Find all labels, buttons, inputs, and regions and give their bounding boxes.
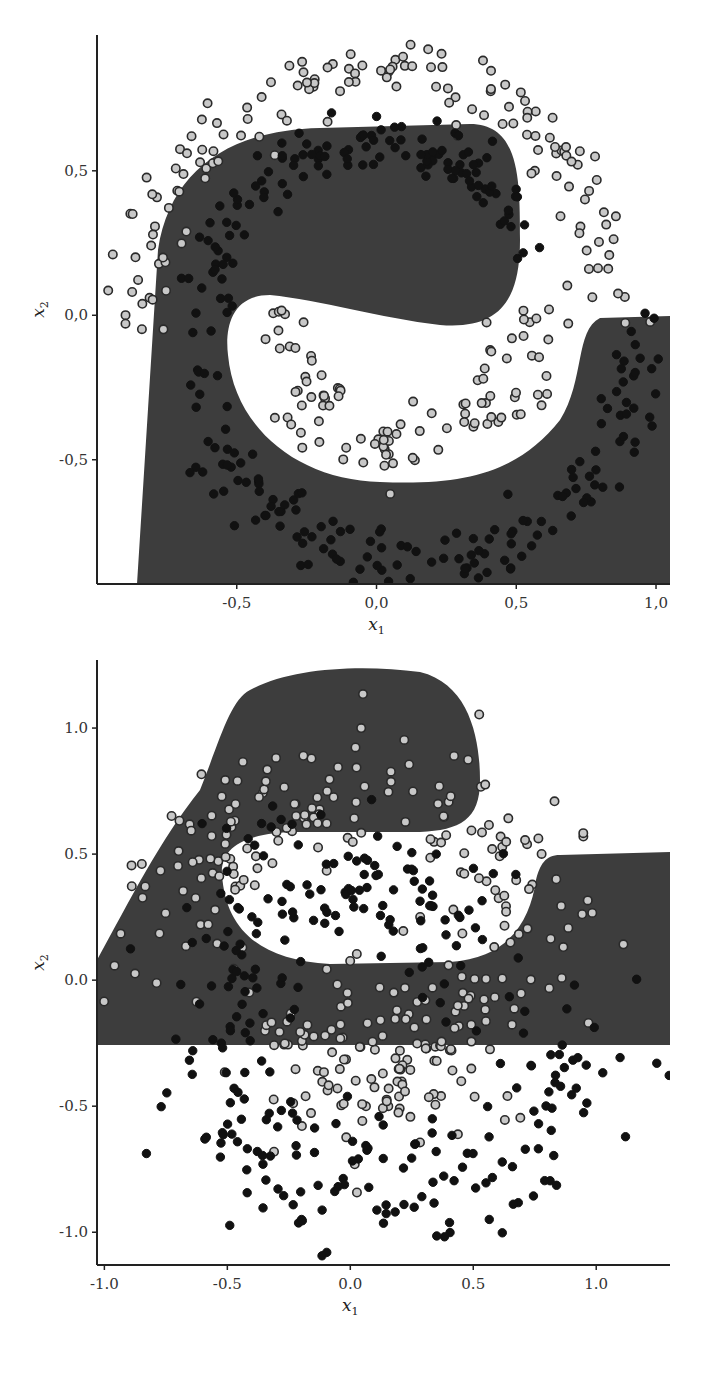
- x-tick-label: 0,0: [365, 594, 389, 612]
- plot-canvas-bottom: -1.0-0.50.00.51.0-1.0-0.50.00.51.0x1x2: [0, 640, 713, 1385]
- x-axis-label: x1: [368, 614, 385, 637]
- x-tick-label: 0,5: [504, 594, 528, 612]
- y-tick-label: 1.0: [64, 719, 88, 737]
- x-tick-label: 0.0: [338, 1275, 362, 1293]
- x-tick-label: 1,0: [644, 594, 668, 612]
- y-axis-label: x2: [28, 954, 51, 971]
- y-tick-label: 0,5: [64, 162, 88, 180]
- x-tick-label: -0,5: [222, 594, 251, 612]
- plot-area: [104, 40, 670, 586]
- chart-top-clean-moons: -0,50,00,51,0-0,50,00,5x1x2: [0, 0, 713, 640]
- y-tick-label: -0,5: [59, 451, 88, 469]
- x-axis-label: x1: [342, 1295, 359, 1318]
- y-tick-label: 0,0: [64, 306, 88, 324]
- x-tick-label: -0.5: [213, 1275, 242, 1293]
- plot-area: [97, 668, 673, 1260]
- y-tick-label: 0.0: [64, 971, 88, 989]
- chart-bottom-noisy-moons: -1.0-0.50.00.51.0-1.0-0.50.00.51.0x1x2: [0, 640, 713, 1385]
- y-axis-label: x2: [28, 301, 51, 318]
- y-tick-label: -1.0: [59, 1223, 88, 1241]
- plot-canvas-top: -0,50,00,51,0-0,50,00,5x1x2: [0, 0, 713, 640]
- y-tick-label: -0.5: [59, 1097, 88, 1115]
- y-tick-label: 0.5: [64, 845, 88, 863]
- x-tick-label: 1.0: [584, 1275, 608, 1293]
- x-tick-label: 0.5: [461, 1275, 485, 1293]
- x-tick-label: -1.0: [90, 1275, 119, 1293]
